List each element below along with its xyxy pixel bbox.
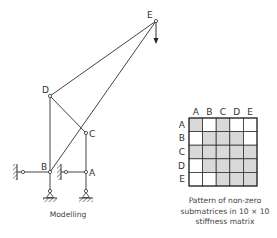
matrix-col-label: D [233,107,240,117]
matrix-cell-EB [203,172,217,186]
matrix-cell-CC [216,145,230,159]
matrix-col-label: C [220,107,226,117]
matrix-cell-EE [243,172,257,186]
node-C [84,131,87,134]
node-label-A: A [89,168,96,178]
node-label-C: C [89,129,95,139]
matrix-caption-line-1: Pattern of non-zero [175,196,275,207]
matrix-cell-CD [230,145,244,159]
member-D-E [50,21,156,96]
load-arrow-icon [154,21,159,44]
matrix-row-label: A [179,120,186,130]
matrix-cell-DB [203,159,217,173]
matrix-cell-BA [189,132,203,146]
matrix-cell-ED [230,172,244,186]
modelling-caption: Modelling [35,210,101,221]
matrix-cell-AA [189,118,203,132]
left-wall-support-icon [13,164,25,180]
pin-support-B-icon [43,189,57,202]
matrix-col-label: A [193,107,200,117]
matrix-row-label: E [179,174,185,184]
matrix-cell-AD [230,118,244,132]
node-label-B: B [41,162,47,172]
member-D-C [50,96,86,133]
node-B [48,170,51,173]
matrix-cell-DE [243,159,257,173]
matrix-cell-BE [243,132,257,146]
matrix-cell-BC [216,132,230,146]
matrix-cell-CE [243,145,257,159]
node-label-D: D [42,85,49,95]
matrix-cell-DA [189,159,203,173]
node-label-E: E [147,10,153,20]
matrix-cell-EA [189,172,203,186]
node-E [154,19,157,22]
matrix-row-label: C [179,147,185,157]
stiffness-matrix: ABCDEABCDE [178,107,257,186]
matrix-cell-CA [189,145,203,159]
middle-wall-support-icon [57,164,68,180]
matrix-caption: Pattern of non-zero submatrices in 10 × … [175,196,275,228]
matrix-cell-DD [230,159,244,173]
matrix-cell-AC [216,118,230,132]
matrix-cell-BB [203,132,217,146]
node-A [84,170,87,173]
pin-support-A-icon [79,189,93,202]
matrix-cell-AE [243,118,257,132]
matrix-row-label: D [178,161,185,171]
matrix-row-label: B [179,133,185,143]
matrix-col-label: E [247,107,253,117]
matrix-col-label: B [206,107,212,117]
matrix-cell-DC [216,159,230,173]
matrix-cell-BD [230,132,244,146]
member-B-E [50,21,156,172]
matrix-caption-line-3: stiffness matrix [175,217,275,228]
matrix-cell-AB [203,118,217,132]
matrix-cell-EC [216,172,230,186]
matrix-cell-CB [203,145,217,159]
matrix-caption-line-2: submatrices in 10 × 10 [175,207,275,218]
